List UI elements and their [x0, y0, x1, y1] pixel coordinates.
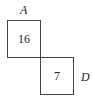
- label-a: A: [20, 4, 27, 16]
- label-d: D: [81, 71, 90, 83]
- lower-right-square: 7: [40, 57, 74, 95]
- upper-left-square: 16: [7, 20, 41, 58]
- square-value-16: 16: [18, 32, 30, 47]
- square-value-7: 7: [54, 69, 60, 84]
